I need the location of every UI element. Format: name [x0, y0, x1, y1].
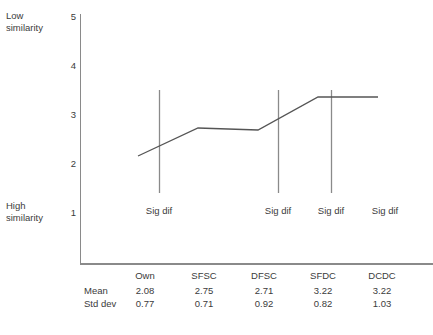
- table-cell-std-dfsc: 0.92: [255, 298, 274, 309]
- table-cell-mean-sfdc: 3.22: [314, 285, 333, 296]
- table-cell-mean-own: 2.08: [136, 285, 155, 296]
- sig-dif-label-4: Sig dif: [372, 205, 398, 216]
- table-cell-std-sfsc: 0.71: [195, 298, 214, 309]
- table-header-sfsc: SFSC: [191, 270, 216, 281]
- table-header-dcdc: DCDC: [368, 270, 395, 281]
- table-cell-std-own: 0.77: [136, 298, 155, 309]
- sig-dif-divider-lines: [160, 90, 332, 193]
- mean-similarity-line: [138, 97, 378, 156]
- table-cell-mean-sfsc: 2.75: [195, 285, 214, 296]
- table-row-label-std-dev: Std dev: [84, 298, 116, 309]
- table-cell-std-dcdc: 1.03: [373, 298, 392, 309]
- plot-area: [0, 0, 433, 335]
- table-header-own: Own: [135, 270, 155, 281]
- table-header-sfdc: SFDC: [310, 270, 336, 281]
- table-row-label-mean: Mean: [84, 285, 108, 296]
- table-header-dfsc: DFSC: [251, 270, 277, 281]
- table-top-rule: [80, 264, 433, 265]
- chart-figure: Low similarity High similarity 5 4 3 2 1…: [0, 0, 433, 335]
- table-cell-mean-dcdc: 3.22: [373, 285, 392, 296]
- sig-dif-label-2: Sig dif: [265, 205, 291, 216]
- sig-dif-label-3: Sig dif: [318, 205, 344, 216]
- table-cell-mean-dfsc: 2.71: [255, 285, 274, 296]
- table-cell-std-sfdc: 0.82: [314, 298, 333, 309]
- sig-dif-label-1: Sig dif: [146, 205, 172, 216]
